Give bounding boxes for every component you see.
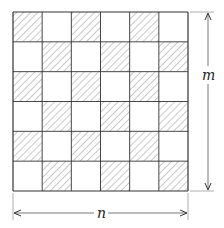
hatched-cell: [130, 12, 159, 42]
hatched-cell: [71, 12, 100, 42]
hatched-cell: [42, 102, 71, 132]
width-dimension: n: [13, 193, 188, 221]
blank-cell: [130, 102, 159, 132]
blank-cell: [71, 161, 100, 191]
width-label: n: [97, 205, 106, 221]
hatched-cell: [101, 102, 130, 132]
hatched-cell: [130, 72, 159, 102]
blank-cell: [130, 161, 159, 191]
hatched-cell: [101, 42, 130, 72]
blank-cell: [130, 42, 159, 72]
blank-cell: [101, 12, 130, 42]
hatched-cell: [42, 161, 71, 191]
blank-cell: [42, 131, 71, 161]
blank-cell: [159, 131, 188, 161]
hatched-cell: [42, 42, 71, 72]
blank-cell: [159, 12, 188, 42]
blank-cell: [13, 161, 42, 191]
hatched-cell: [71, 131, 100, 161]
height-label: m: [202, 67, 215, 83]
hatched-cell: [159, 42, 188, 72]
blank-cell: [42, 72, 71, 102]
hatched-cell: [130, 131, 159, 161]
hatched-cell: [71, 72, 100, 102]
hatched-cell: [101, 161, 130, 191]
hatched-cell: [159, 161, 188, 191]
blank-cell: [71, 102, 100, 132]
hatched-cell: [13, 131, 42, 161]
blank-cell: [42, 12, 71, 42]
hatched-cell: [13, 12, 42, 42]
blank-cell: [101, 131, 130, 161]
checkerboard-diagram: m n: [0, 0, 224, 228]
height-dimension: m: [190, 12, 215, 191]
blank-cell: [13, 42, 42, 72]
blank-cell: [71, 42, 100, 72]
hatched-cell: [159, 102, 188, 132]
hatched-cell: [13, 72, 42, 102]
blank-cell: [101, 72, 130, 102]
blank-cell: [159, 72, 188, 102]
blank-cell: [13, 102, 42, 132]
